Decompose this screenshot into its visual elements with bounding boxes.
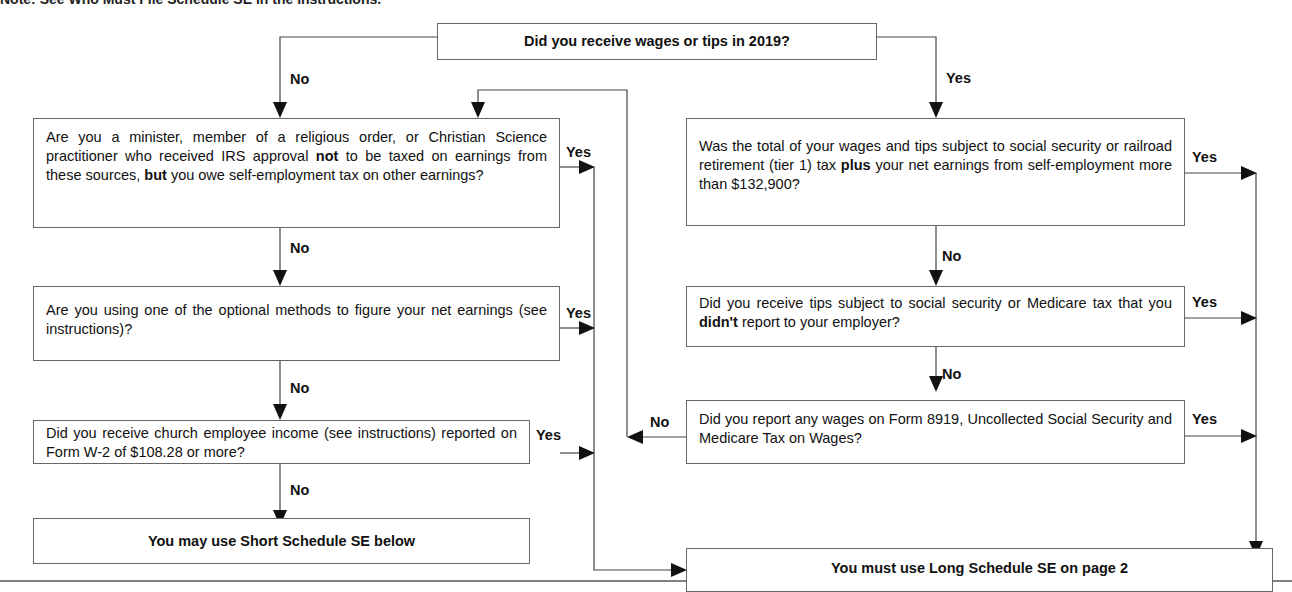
form-8919-question: Did you report any wages on Form 8919, U… — [699, 410, 1172, 448]
start-yes-label: Yes — [946, 70, 971, 86]
long-schedule-outcome-box: You must use Long Schedule SE on page 2 — [686, 548, 1273, 592]
church-income-yes-label: Yes — [536, 427, 561, 443]
optional-methods-no-label: No — [290, 380, 309, 396]
unreported-tips-no-label: No — [942, 366, 961, 382]
wages-threshold-yes-label: Yes — [1192, 149, 1217, 165]
unreported-tips-question: Did you receive tips subject to social s… — [699, 294, 1172, 332]
minister-question-box: Are you a minister, member of a religiou… — [33, 118, 560, 228]
wages-threshold-question: Was the total of your wages and tips sub… — [699, 137, 1172, 194]
form-8919-yes-label: Yes — [1192, 411, 1217, 427]
form-8919-question-box: Did you report any wages on Form 8919, U… — [686, 400, 1185, 464]
short-schedule-outcome: You may use Short Schedule SE below — [46, 532, 517, 551]
church-income-question-box: Did you receive church employee income (… — [33, 420, 530, 464]
long-schedule-outcome: You must use Long Schedule SE on page 2 — [699, 559, 1260, 578]
start-no-label: No — [290, 71, 309, 87]
church-income-question: Did you receive church employee income (… — [46, 424, 517, 462]
minister-yes-label: Yes — [566, 144, 591, 160]
short-schedule-outcome-box: You may use Short Schedule SE below — [33, 518, 530, 564]
minister-no-label: No — [290, 240, 309, 256]
optional-methods-yes-label: Yes — [566, 305, 591, 321]
optional-methods-question-box: Are you using one of the optional method… — [33, 286, 560, 361]
unreported-tips-yes-label: Yes — [1192, 294, 1217, 310]
wages-threshold-question-box: Was the total of your wages and tips sub… — [686, 118, 1185, 226]
wages-threshold-no-label: No — [942, 248, 961, 264]
minister-question: Are you a minister, member of a religiou… — [46, 128, 547, 185]
form-8919-no-label: No — [650, 414, 669, 430]
start-question-box: Did you receive wages or tips in 2019? — [437, 23, 877, 60]
unreported-tips-question-box: Did you receive tips subject to social s… — [686, 286, 1185, 347]
start-question: Did you receive wages or tips in 2019? — [450, 32, 864, 51]
optional-methods-question: Are you using one of the optional method… — [46, 301, 547, 339]
church-income-no-label: No — [290, 482, 309, 498]
